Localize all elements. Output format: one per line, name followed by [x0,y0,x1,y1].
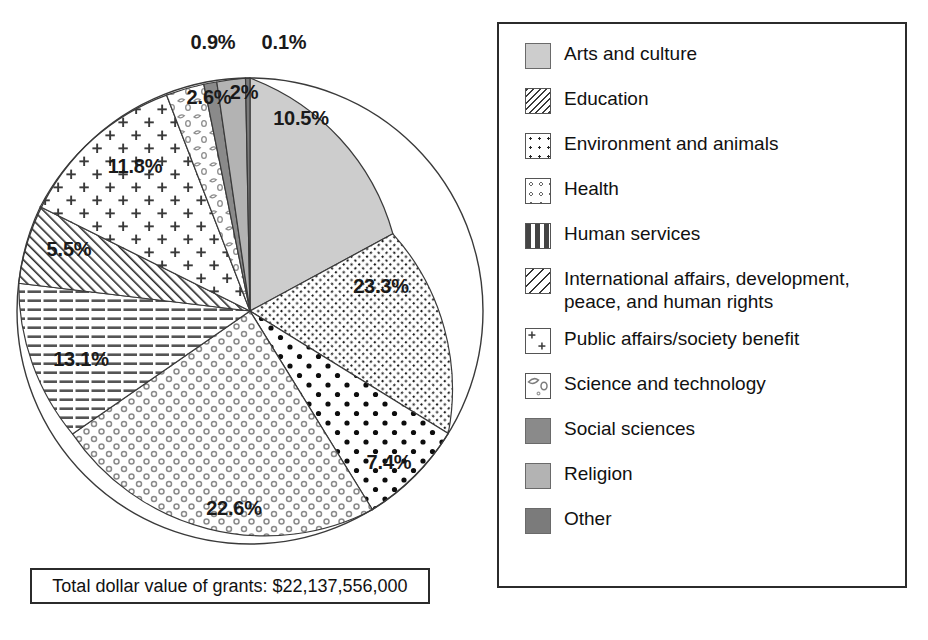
legend-label-environment-and-animals: Environment and animals [564,132,778,155]
legend-label-social-sciences: Social sciences [564,417,695,440]
legend-item-science-and-technology[interactable]: Science and technology [525,372,895,399]
legend-label-education: Education [564,87,649,110]
legend-swatch-arts-and-culture-icon [525,43,551,69]
legend-label-other: Other [564,507,612,530]
legend-swatch-health-icon [525,178,551,204]
legend-swatch-public-affairs-society-benefit-icon [525,328,551,354]
legend-item-education[interactable]: Education [525,87,895,114]
total-value-box: Total dollar value of grants: $22,137,55… [30,568,430,604]
legend-label-health: Health [564,177,619,200]
legend-label-religion: Religion [564,462,633,485]
legend-item-public-affairs-society-benefit[interactable]: Public affairs/society benefit [525,327,895,354]
legend-item-social-sciences[interactable]: Social sciences [525,417,895,444]
legend-swatch-social-sciences-icon [525,418,551,444]
legend-swatch-environment-and-animals-icon [525,133,551,159]
pie-chart-figure: 10.5% 23.3% 7.4% 22.6% 13.1% 5.5% 11.8% … [0,0,928,640]
legend-label-arts-and-culture: Arts and culture [564,42,697,65]
legend: Arts and culture Education Environment a… [497,22,907,588]
legend-item-health[interactable]: Health [525,177,895,204]
legend-item-environment-and-animals[interactable]: Environment and animals [525,132,895,159]
total-value-text: Total dollar value of grants: $22,137,55… [52,576,407,597]
legend-swatch-science-and-technology-icon [525,373,551,399]
pie-area: 10.5% 23.3% 7.4% 22.6% 13.1% 5.5% 11.8% … [0,0,490,600]
legend-label-international-affairs: International affairs, development, peac… [564,267,894,313]
pie-svg [0,0,490,600]
legend-item-international-affairs[interactable]: International affairs, development, peac… [525,267,895,313]
legend-swatch-religion-icon [525,463,551,489]
legend-swatch-international-affairs-icon [525,268,551,294]
legend-item-religion[interactable]: Religion [525,462,895,489]
legend-item-human-services[interactable]: Human services [525,222,895,249]
legend-label-science-and-technology: Science and technology [564,372,766,395]
legend-item-arts-and-culture[interactable]: Arts and culture [525,42,895,69]
legend-item-other[interactable]: Other [525,507,895,534]
legend-label-public-affairs-society-benefit: Public affairs/society benefit [564,327,799,350]
legend-swatch-other-icon [525,508,551,534]
legend-swatch-human-services-icon [525,223,551,249]
legend-label-human-services: Human services [564,222,700,245]
legend-swatch-education-icon [525,88,551,114]
